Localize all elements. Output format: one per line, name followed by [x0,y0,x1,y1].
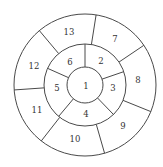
region-label-10: 10 [70,134,81,144]
outer-divider-2 [123,100,151,111]
middle-divider-4 [48,68,69,77]
region-label-11: 11 [32,105,43,115]
region-label-9: 9 [120,121,125,131]
region-label-6: 6 [67,57,72,67]
region-label-2: 2 [98,56,103,66]
region-label-5: 5 [54,83,59,93]
region-label-1: 1 [83,81,88,91]
segmented-circle-diagram: 1 2 3 4 5 6 7 8 9 10 11 12 13 [0,0,163,167]
outer-divider-3 [96,124,104,153]
middle-divider-3 [59,99,74,117]
region-label-4: 4 [83,109,88,119]
outer-divider-0 [91,15,96,45]
region-label-7: 7 [112,34,117,44]
region-label-13: 13 [64,27,75,37]
middle-divider-1 [102,72,124,79]
region-label-3: 3 [110,83,115,93]
diagram-svg: 1 2 3 4 5 6 7 8 9 10 11 12 13 [0,0,163,167]
region-label-12: 12 [29,61,40,71]
outer-divider-1 [119,45,144,62]
outer-divider-4 [41,117,59,141]
region-label-8: 8 [135,75,140,85]
outer-divider-5 [14,88,44,90]
outer-divider-6 [39,31,58,54]
middle-divider-2 [98,98,114,115]
